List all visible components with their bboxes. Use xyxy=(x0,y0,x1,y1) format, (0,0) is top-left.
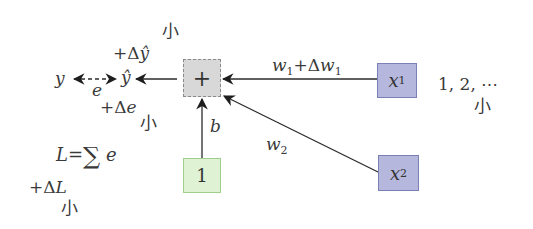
bias-b-label: b xyxy=(210,118,221,135)
small-mark-yhat: 小 xyxy=(162,23,179,40)
x2-sub: 2 xyxy=(400,167,407,180)
x2-var: x xyxy=(390,163,400,184)
small-mark-x1: 小 xyxy=(474,98,491,115)
input-node-x1: x1 xyxy=(377,63,417,98)
delta-yhat-label: +Δŷ xyxy=(113,45,149,62)
sum-node: + xyxy=(183,59,221,97)
weight-w2-label: w2 xyxy=(266,136,288,156)
neural-unit-diagram: + x1 x2 1 w1+Δw1 w2 b e y ŷ +Δŷ 小 +Δe 小 … xyxy=(0,0,533,229)
sequence-label: 1, 2, ⋯ xyxy=(438,76,498,93)
input-node-x2: x2 xyxy=(378,155,419,191)
x1-sub: 1 xyxy=(399,74,406,87)
loss-formula: L=∑ e xyxy=(56,144,117,168)
small-mark-L: 小 xyxy=(61,200,78,217)
bias-node: 1 xyxy=(183,158,221,193)
edge-x2-to-sum xyxy=(224,96,378,172)
sum-label: + xyxy=(193,66,211,91)
small-mark-e: 小 xyxy=(140,115,157,132)
target-y-label: y xyxy=(55,70,65,87)
prediction-yhat-label: ŷ xyxy=(121,69,131,86)
diagram-edges xyxy=(0,0,533,229)
delta-e-label: +Δe xyxy=(100,99,137,116)
delta-L-label: +ΔL xyxy=(29,179,67,196)
weight-w1-label: w1+Δw1 xyxy=(272,57,342,77)
bias-label: 1 xyxy=(196,165,207,186)
x1-var: x xyxy=(388,70,398,91)
